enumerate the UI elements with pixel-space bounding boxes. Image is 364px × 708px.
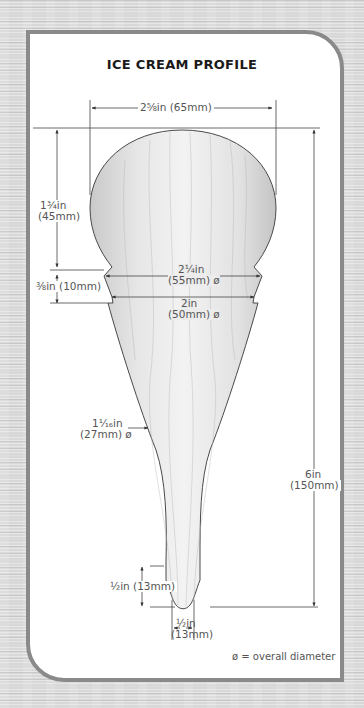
collar-top-dia-label-2: (55mm) ø xyxy=(168,275,220,286)
top-width-label: 2⅝in (65mm) xyxy=(138,102,214,113)
collar-bottom-dia-label-2: (50mm) ø xyxy=(168,309,220,320)
profile-shape xyxy=(90,130,276,609)
diameter-legend: ø = overall diameter xyxy=(232,651,335,662)
ball-height-label-2: (45mm) xyxy=(36,211,82,222)
collar-height-label: ⅜in (10mm) xyxy=(34,281,103,292)
tip-height-label: ½in (13mm) xyxy=(108,581,177,592)
neck-dia-label-2: (27mm) ø xyxy=(80,429,132,440)
overall-height-label-2: (150mm) xyxy=(288,480,341,491)
tip-dia-label-2: (13mm) xyxy=(171,629,213,640)
